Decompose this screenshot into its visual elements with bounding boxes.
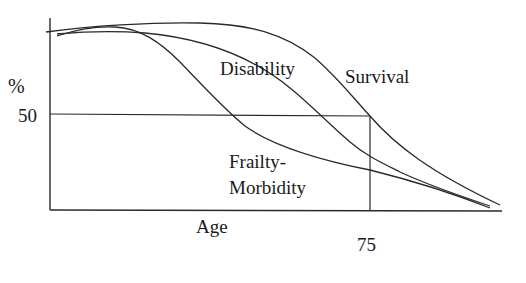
frailty-morbidity-curve-label: Frailty- Morbidity (229, 149, 306, 201)
x-tick-75: 75 (357, 235, 376, 254)
y-axis-label: % (8, 76, 25, 96)
x-axis-label: Age (196, 217, 228, 236)
frailty-label-line-2: Morbidity (229, 175, 306, 201)
plot-area (0, 0, 526, 283)
chart: % 50 Age 75 Disability Survival Frailty-… (0, 0, 526, 283)
survival-curve-label: Survival (345, 67, 409, 86)
disability-curve-label: Disability (220, 59, 295, 78)
x-axis (50, 210, 502, 211)
y-tick-50: 50 (18, 106, 37, 125)
frailty-label-line-1: Frailty- (229, 149, 306, 175)
